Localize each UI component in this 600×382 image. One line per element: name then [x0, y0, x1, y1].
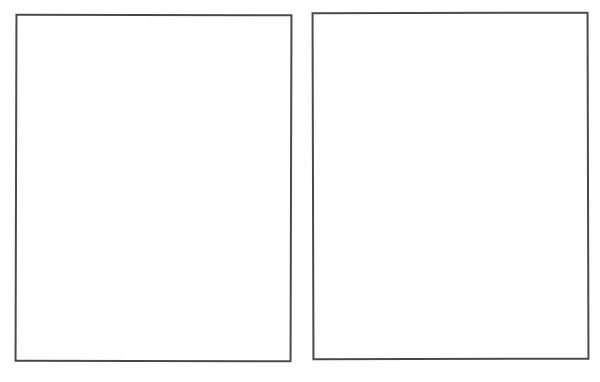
- blank-page-right: [312, 12, 590, 361]
- blank-page-left: [15, 14, 293, 363]
- document-canvas: [0, 0, 600, 382]
